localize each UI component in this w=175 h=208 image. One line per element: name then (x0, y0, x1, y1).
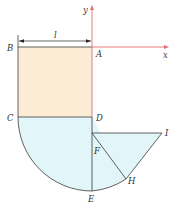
point-label-i: I (164, 128, 169, 138)
y-axis-label: y (82, 5, 88, 15)
x-axis-arrow-icon (164, 45, 169, 49)
point-label-e: E (87, 194, 95, 204)
point-label-b: B (6, 43, 13, 53)
semicircle-fill-left (18, 117, 92, 191)
x-axis-label: x (163, 50, 168, 60)
point-label-f: F (93, 146, 101, 156)
rectangle-abcd (18, 47, 92, 117)
point-label-d: D (95, 113, 103, 123)
y-axis-arrow-icon (90, 5, 94, 10)
point-label-h: H (127, 176, 136, 186)
point-label-a: A (95, 49, 102, 59)
dimension-arrow-right-icon (86, 39, 91, 42)
point-label-c: C (7, 113, 14, 123)
geometry-diagram: l y x B A C D F I H E (0, 0, 175, 208)
dimension-arrow-left-icon (19, 39, 24, 42)
dimension-label: l (54, 30, 57, 40)
